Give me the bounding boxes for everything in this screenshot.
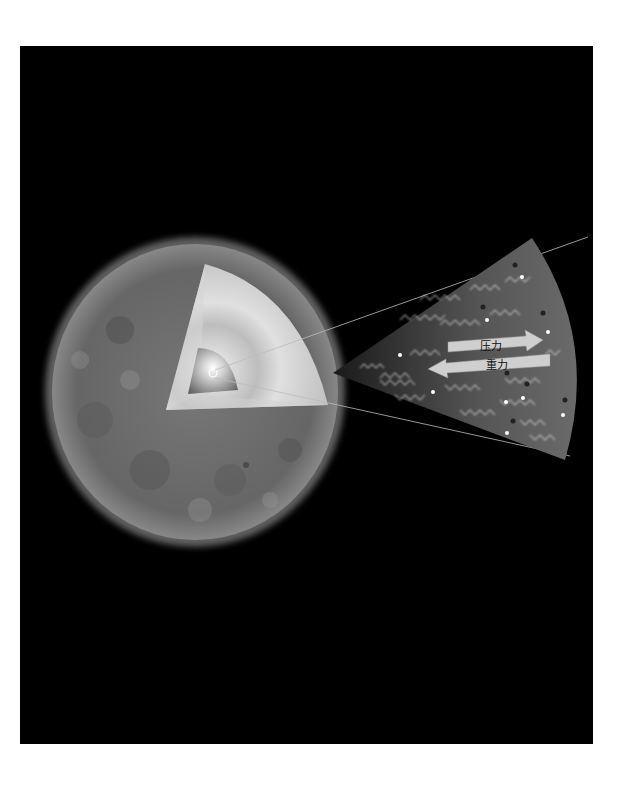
particle	[546, 330, 550, 334]
particle	[513, 263, 518, 268]
pressure-label: 压力	[480, 340, 502, 353]
particle	[485, 318, 489, 322]
particle	[521, 396, 525, 400]
particle	[481, 305, 486, 310]
magnified-wedge: 压力 重力	[333, 238, 577, 460]
gravity-label: 重力	[486, 358, 508, 372]
star-diagram: 压力 重力	[0, 0, 628, 787]
particle	[511, 419, 516, 424]
particle	[563, 398, 568, 403]
particle	[504, 400, 508, 404]
particle	[520, 275, 524, 279]
particle	[431, 390, 435, 394]
particle	[561, 413, 565, 417]
particle	[525, 382, 530, 387]
particle	[505, 431, 509, 435]
particle	[541, 311, 546, 316]
particle	[398, 353, 402, 357]
